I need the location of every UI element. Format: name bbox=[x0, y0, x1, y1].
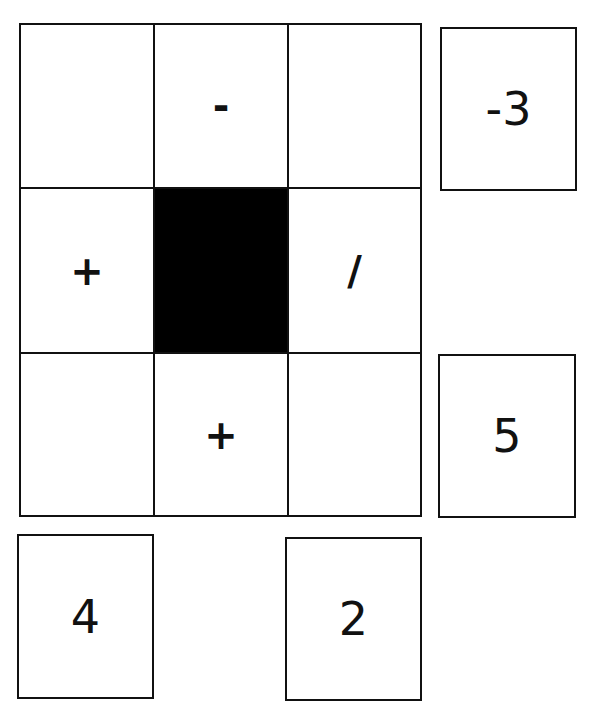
cell-r2-c1-plus: + bbox=[21, 189, 155, 354]
cell-r3-c2-plus: + bbox=[155, 354, 289, 515]
tile-label: 5 bbox=[492, 409, 521, 463]
tile-result-col3: 2 bbox=[285, 537, 422, 701]
tile-result-col1: 4 bbox=[17, 534, 154, 699]
cell-r3-c3[interactable] bbox=[289, 354, 420, 515]
cell-r1-c2-minus: - bbox=[155, 25, 289, 189]
puzzle-grid: - + / + bbox=[19, 23, 422, 517]
cell-r2-c3-divide: / bbox=[289, 189, 420, 354]
cell-r1-c3[interactable] bbox=[289, 25, 420, 189]
cell-r2-c2-blocked bbox=[155, 189, 289, 354]
tile-label: 4 bbox=[71, 590, 100, 644]
cell-r3-c1[interactable] bbox=[21, 354, 155, 515]
tile-result-row3: 5 bbox=[438, 354, 576, 518]
tile-result-row1: -3 bbox=[440, 27, 577, 191]
tile-label: 2 bbox=[339, 592, 368, 646]
tile-label: -3 bbox=[486, 82, 532, 136]
cell-r1-c1[interactable] bbox=[21, 25, 155, 189]
